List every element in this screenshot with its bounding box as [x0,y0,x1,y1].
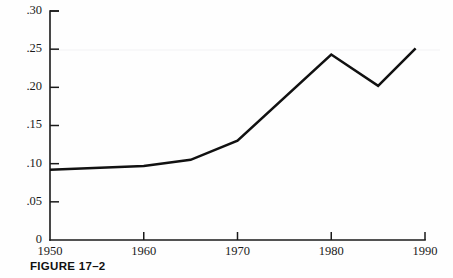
y-tick-label: .20 [26,79,42,93]
x-tick-label: 1980 [319,244,344,258]
x-tick-label: 1950 [38,244,63,258]
x-tick-label: 1990 [413,244,438,258]
y-tick-label: .10 [26,156,42,170]
x-tick-label: 1960 [131,244,156,258]
y-ticks-group [50,11,59,202]
x-ticks-group [144,232,425,240]
y-tick-labels-group: 0.05.10.15.20.25.30 [26,3,42,246]
y-tick-label: .25 [26,41,42,55]
axes-group [50,11,425,240]
figure-caption: FIGURE 17–2 [30,260,106,272]
y-tick-label: .05 [26,194,42,208]
line-chart: 0.05.10.15.20.25.30 19501960197019801990 [0,0,453,278]
data-line-series-1 [50,48,416,169]
y-tick-label: .30 [26,3,42,17]
x-tick-label: 1970 [225,244,250,258]
data-series-group [50,48,416,169]
x-tick-labels-group: 19501960197019801990 [38,244,438,258]
y-tick-label: .15 [26,117,42,131]
figure-container: 0.05.10.15.20.25.30 19501960197019801990… [0,0,453,278]
